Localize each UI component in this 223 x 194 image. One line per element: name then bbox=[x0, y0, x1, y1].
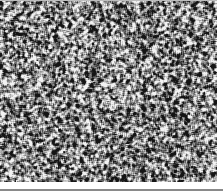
speckle-image bbox=[0, 0, 217, 182]
image-top-edge bbox=[0, 0, 217, 1]
bottom-divider bbox=[0, 189, 223, 191]
